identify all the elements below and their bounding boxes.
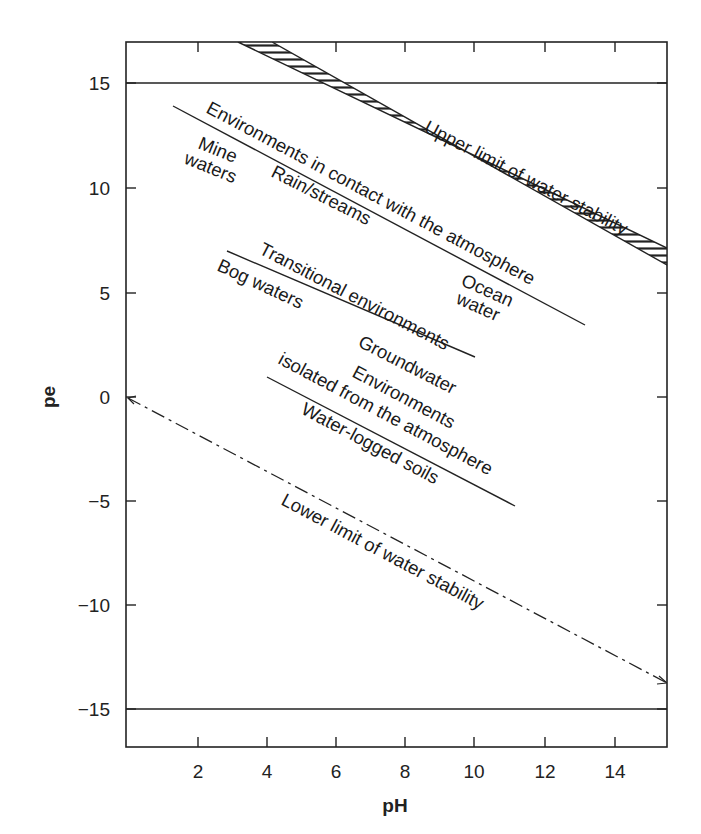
y-tick-labels: 15 10 5 0 −5 −10 −15 (78, 73, 110, 720)
atmosphere-boundary-line (173, 106, 585, 325)
y-tick-0: 0 (99, 387, 110, 408)
y-tick-m10: −10 (78, 595, 110, 616)
x-tick-labels: 2 4 6 8 10 12 14 (193, 761, 626, 782)
y-axis-title: pe (38, 386, 59, 408)
y-tick-m15: −15 (78, 699, 110, 720)
y-tick-5: 5 (99, 283, 110, 304)
x-tick-2: 2 (193, 761, 204, 782)
x-tick-4: 4 (262, 761, 273, 782)
lower-limit-line (128, 398, 667, 683)
y-tick-15: 15 (89, 73, 110, 94)
pe-ph-chart: 15 10 5 0 −5 −10 −15 2 4 6 8 10 12 14 pH… (0, 0, 701, 834)
x-axis-title: pH (382, 795, 407, 816)
label-lower-limit: Lower limit of water stability (278, 489, 488, 614)
x-tick-12: 12 (534, 761, 555, 782)
label-atmosphere: Environments in contact with the atmosph… (203, 97, 539, 289)
x-tick-14: 14 (604, 761, 626, 782)
x-tick-10: 10 (463, 761, 484, 782)
x-tick-6: 6 (331, 761, 342, 782)
y-tick-m5: −5 (88, 491, 110, 512)
x-tick-8: 8 (400, 761, 411, 782)
label-upper-limit: Upper limit of water stability (421, 116, 632, 239)
y-tick-10: 10 (89, 178, 110, 199)
